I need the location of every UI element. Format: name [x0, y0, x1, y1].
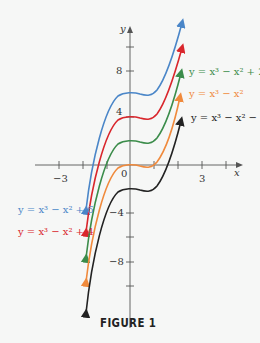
x-tick-label: 0: [121, 169, 127, 179]
curve-minus-2: [86, 121, 181, 313]
label-plus-6: y = x³ − x² + 6: [18, 205, 94, 215]
y-tick-label: −4: [109, 208, 124, 218]
graph-canvas: [0, 0, 260, 343]
label-plus-2: y = x³ − x² + 2: [189, 67, 260, 77]
label-minus-2: y = x³ − x² − 2: [191, 113, 260, 123]
x-tick-label: −3: [53, 174, 68, 184]
y-axis-arrow: [127, 26, 133, 33]
y-axis: [126, 30, 134, 328]
y-tick-label: 4: [116, 107, 122, 117]
x-tick-label: 3: [199, 174, 205, 184]
y-tick-label: −8: [109, 257, 124, 267]
x-axis-label: x: [234, 168, 240, 178]
figure-caption: FIGURE 1: [100, 316, 156, 330]
y-tick-label: 8: [116, 66, 122, 76]
y-axis-label: y: [120, 24, 126, 34]
label-plus-4: y = x³ − x² + 4: [18, 227, 94, 237]
label-zero: y = x³ − x²: [189, 89, 243, 99]
